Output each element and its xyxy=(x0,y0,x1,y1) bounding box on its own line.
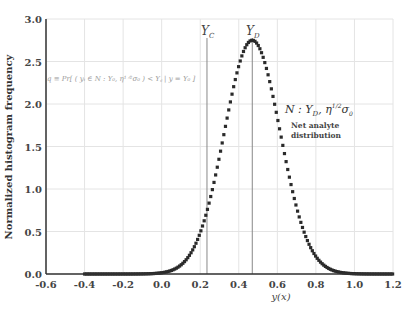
data-point xyxy=(222,133,225,136)
data-point xyxy=(189,251,192,254)
data-point xyxy=(303,231,306,234)
chart: -0.6-0.4-0.20.00.20.40.60.81.01.2 0.00.5… xyxy=(0,0,411,311)
data-point xyxy=(286,168,289,171)
yc-label: YC xyxy=(201,24,215,40)
annotation-net-analyte: Net analyte xyxy=(291,121,340,130)
y-tick-labels: 0.00.51.01.52.02.53.0 xyxy=(25,14,42,280)
data-point xyxy=(265,67,268,70)
data-point xyxy=(271,95,274,98)
data-point xyxy=(211,188,214,191)
data-point xyxy=(262,56,265,59)
data-point xyxy=(288,176,291,179)
data-point xyxy=(226,116,229,119)
data-point xyxy=(237,65,240,68)
x-tick-label: 1.2 xyxy=(384,279,401,290)
data-point xyxy=(309,246,312,249)
data-point xyxy=(219,150,222,153)
data-point xyxy=(242,50,245,53)
data-point xyxy=(227,108,230,111)
data-point xyxy=(203,219,206,222)
data-point xyxy=(209,195,212,198)
data-point xyxy=(307,243,310,246)
annotation-distribution: distribution xyxy=(291,131,342,140)
y-tick-label: 1.5 xyxy=(25,142,42,153)
data-point xyxy=(194,242,197,245)
x-tick-label: -0.2 xyxy=(112,279,134,290)
data-point xyxy=(244,46,247,49)
data-point xyxy=(289,183,292,186)
data-point xyxy=(212,181,215,184)
y-tick-label: 3.0 xyxy=(25,14,42,25)
data-point xyxy=(232,85,235,88)
data-point xyxy=(198,234,201,237)
data-point xyxy=(294,203,297,206)
x-tick-label: -0.4 xyxy=(74,279,96,290)
data-point xyxy=(258,47,261,50)
data-point xyxy=(234,78,237,81)
x-tick-label: -0.6 xyxy=(35,279,57,290)
reference-lines xyxy=(207,38,252,274)
data-point xyxy=(278,127,281,130)
data-point xyxy=(293,197,296,200)
x-tick-label: 1.0 xyxy=(346,279,363,290)
x-tick-label: 0.8 xyxy=(307,279,324,290)
data-point xyxy=(260,51,263,54)
data-point xyxy=(191,248,194,251)
y-tick-label: 0.5 xyxy=(25,227,42,238)
y-tick-label: 2.0 xyxy=(25,99,42,110)
data-point xyxy=(257,44,260,47)
data-point xyxy=(273,103,276,106)
distribution-notation: N : YD, η1/2σ0 xyxy=(284,102,353,118)
y-tick-label: 1.0 xyxy=(25,184,42,195)
data-point xyxy=(214,173,217,176)
data-point xyxy=(221,141,224,144)
data-point xyxy=(201,224,204,227)
data-point xyxy=(298,215,301,218)
data-point xyxy=(240,54,243,57)
y-tick-label: 0.0 xyxy=(25,269,42,280)
x-tick-label: 0.4 xyxy=(230,279,247,290)
data-point xyxy=(276,119,279,122)
probability-formula: q ≡ Pr[ ( yᵢ ∈ N : Y₀, η¹ᐟ²σ₀ ) < Y꜀ | y… xyxy=(47,75,196,83)
data-point xyxy=(296,210,299,213)
data-point xyxy=(196,238,199,241)
yd-label: YD xyxy=(246,24,260,40)
data-point xyxy=(224,125,227,128)
data-point xyxy=(230,93,233,96)
data-point xyxy=(206,208,209,211)
data-point xyxy=(204,214,207,217)
data-point xyxy=(280,136,283,139)
data-point xyxy=(266,73,269,76)
data-point xyxy=(281,144,284,147)
data-point xyxy=(304,235,307,238)
data-point xyxy=(291,190,294,193)
data-point xyxy=(299,221,302,224)
y-tick-label: 2.5 xyxy=(25,57,42,68)
data-point xyxy=(301,226,304,229)
data-point xyxy=(229,100,232,103)
data-point xyxy=(199,229,202,232)
grid-lines xyxy=(46,19,393,274)
data-point xyxy=(270,87,273,90)
data-point xyxy=(217,158,220,161)
data-point xyxy=(263,61,266,64)
data-point xyxy=(283,152,286,155)
data-point xyxy=(216,166,219,169)
data-point xyxy=(306,239,309,242)
data-point xyxy=(207,202,210,205)
data-point xyxy=(235,71,238,74)
y-axis-label: Normalized histogram frequency xyxy=(3,53,14,239)
x-tick-label: 0.2 xyxy=(192,279,209,290)
data-point xyxy=(268,80,271,83)
data-point xyxy=(193,245,196,248)
x-tick-labels: -0.6-0.4-0.20.00.20.40.60.81.01.2 xyxy=(35,279,402,290)
x-axis-label: y(x) xyxy=(270,291,290,302)
x-tick-label: 0.0 xyxy=(153,279,170,290)
x-tick-label: 0.6 xyxy=(269,279,286,290)
data-point xyxy=(285,160,288,163)
data-point xyxy=(275,111,278,114)
data-point xyxy=(311,249,314,252)
data-point xyxy=(239,59,242,62)
